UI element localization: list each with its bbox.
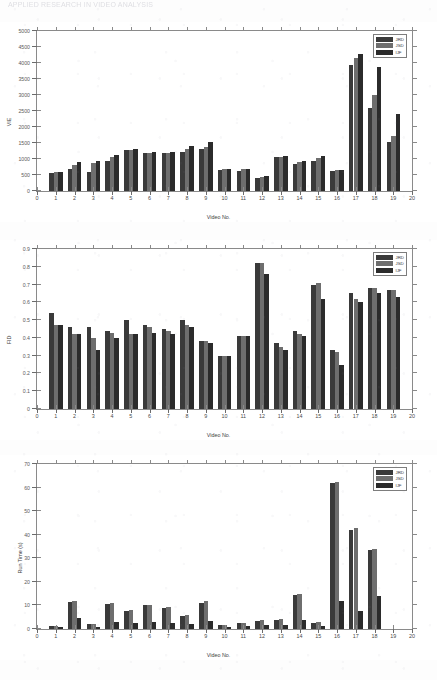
x-tick-label: 5	[129, 413, 132, 419]
x-tick-label: 3	[92, 413, 95, 419]
legend-item[interactable]: JRD	[376, 37, 404, 43]
y-tick-label: 10	[24, 602, 30, 608]
x-tick-top	[93, 27, 94, 31]
bar	[283, 625, 288, 629]
legend-item[interactable]: IJF	[376, 483, 404, 489]
y-tick-inner	[37, 78, 41, 79]
chart-legend[interactable]: JRDJSDIJF	[373, 467, 407, 491]
bar	[283, 350, 288, 409]
y-tick-label: 0.5	[23, 317, 30, 323]
legend-item[interactable]: IJF	[376, 268, 404, 274]
bar	[170, 623, 175, 629]
x-tick-top	[225, 245, 226, 249]
legend-item[interactable]: IJF	[376, 50, 404, 56]
x-tick-top	[393, 27, 394, 31]
x-tick-top	[37, 27, 38, 31]
x-tick-inner	[337, 187, 338, 191]
y-tick-label: 2500	[18, 108, 30, 114]
x-tick-label: 1	[54, 195, 57, 201]
x-tick-label: 17	[353, 195, 359, 201]
bar	[114, 338, 119, 409]
x-tick-inner	[300, 625, 301, 629]
x-tick-label: 2	[73, 633, 76, 639]
chart-fid: 00.10.20.30.40.50.60.70.80.9012345678910…	[0, 240, 437, 440]
legend-swatch-icon	[376, 476, 393, 481]
x-tick-inner	[131, 405, 132, 409]
y-tick-right	[412, 46, 417, 47]
y-tick-label: 0.3	[23, 353, 30, 359]
bar	[227, 356, 232, 409]
y-tick-right	[412, 301, 417, 302]
chart-legend[interactable]: JRDJSDIJF	[373, 252, 407, 276]
x-tick-top	[187, 27, 188, 31]
x-tick-inner	[37, 405, 38, 409]
x-tick-label: 5	[129, 195, 132, 201]
y-tick-label: 3500	[18, 76, 30, 82]
x-tick-label: 9	[204, 413, 207, 419]
x-tick-label: 16	[334, 413, 340, 419]
chart-legend[interactable]: JRDJSDIJF	[373, 34, 407, 58]
legend-item[interactable]: JRD	[376, 470, 404, 476]
bar	[227, 169, 232, 191]
x-tick-label: 7	[167, 413, 170, 419]
x-tick-inner	[375, 187, 376, 191]
x-tick-inner	[56, 187, 57, 191]
x-tick-top	[356, 245, 357, 249]
x-tick-top	[225, 460, 226, 464]
y-tick-right	[412, 78, 417, 79]
bar	[396, 114, 401, 191]
x-tick-top	[375, 460, 376, 464]
bar	[114, 155, 119, 191]
x-tick-top	[150, 27, 151, 31]
y-tick-inner	[37, 319, 41, 320]
x-tick-inner	[300, 187, 301, 191]
y-tick-inner	[37, 110, 41, 111]
x-tick-inner	[206, 625, 207, 629]
x-tick-top	[337, 460, 338, 464]
legend-item[interactable]: JSD	[376, 43, 404, 49]
legend-item[interactable]: JSD	[376, 476, 404, 482]
y-tick-label: 1000	[18, 156, 30, 162]
y-tick-right	[412, 510, 417, 511]
x-tick-inner	[37, 625, 38, 629]
legend-label: JSD	[395, 476, 403, 482]
legend-swatch-icon	[376, 261, 393, 266]
x-tick-inner	[93, 187, 94, 191]
x-tick-top	[112, 245, 113, 249]
x-tick-label: 11	[240, 413, 246, 419]
x-tick-inner	[281, 187, 282, 191]
x-tick-top	[300, 245, 301, 249]
legend-label: JRD	[395, 255, 404, 261]
x-tick-label: 4	[111, 633, 114, 639]
x-tick-inner	[37, 187, 38, 191]
x-axis-title: Video No.	[207, 432, 231, 438]
y-tick-label: 40	[24, 532, 30, 538]
x-tick-label: 17	[353, 413, 359, 419]
y-tick-right	[412, 319, 417, 320]
y-tick-label: 30	[24, 555, 30, 561]
x-tick-label: 19	[390, 633, 396, 639]
y-tick-label: 4000	[18, 60, 30, 66]
legend-item[interactable]: JSD	[376, 261, 404, 267]
legend-label: JRD	[395, 37, 404, 43]
x-tick-inner	[187, 405, 188, 409]
y-tick-label: 50	[24, 508, 30, 514]
x-tick-label: 6	[148, 413, 151, 419]
x-tick-inner	[412, 187, 413, 191]
y-tick-right	[412, 110, 417, 111]
plot-area: 0500100015002000250030003500400045005000…	[36, 30, 413, 192]
bar	[170, 152, 175, 191]
scanned-header-text: APPLIED RESEARCH IN VIDEO ANALYSIS	[8, 1, 338, 10]
x-tick-label: 8	[186, 633, 189, 639]
bar	[339, 601, 344, 629]
x-tick-label: 6	[148, 195, 151, 201]
x-tick-top	[56, 27, 57, 31]
x-tick-label: 18	[372, 633, 378, 639]
figure-page: APPLIED RESEARCH IN VIDEO ANALYSIS 05001…	[0, 0, 437, 680]
y-tick-label: 20	[24, 579, 30, 585]
bar	[358, 54, 363, 191]
legend-label: JSD	[395, 43, 403, 49]
x-tick-label: 20	[409, 195, 415, 201]
legend-item[interactable]: JRD	[376, 255, 404, 261]
bar	[264, 625, 269, 629]
